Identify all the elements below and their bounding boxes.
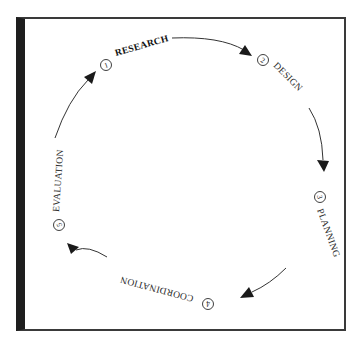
arrow-planning-to-coordination [240, 268, 286, 298]
stage-evaluation: 5 EVALUATION [51, 149, 65, 230]
arrowhead-icon [239, 45, 252, 56]
arrowhead-icon [67, 243, 79, 254]
arrow-design-to-planning [309, 108, 329, 172]
stage-research: 1 RESEARCH [101, 33, 170, 70]
stage-number: 4 [206, 299, 210, 308]
arrow-research-to-design [172, 38, 252, 56]
arrow-evaluation-to-research [55, 71, 96, 138]
stage-label-design: DESIGN [272, 60, 305, 93]
stage-coordination: 4 COORDINATION [119, 275, 213, 310]
cycle-diagram: 1 RESEARCH 2 DESIGN 3 PLANNING 4 COORDIN… [0, 0, 363, 345]
stage-design: 2 DESIGN [258, 55, 305, 94]
arrowhead-icon [240, 287, 254, 298]
stage-label-research: RESEARCH [114, 33, 170, 58]
stage-label-planning: PLANNING [315, 207, 342, 258]
stage-label-evaluation: EVALUATION [51, 149, 65, 212]
stage-planning: 3 PLANNING [315, 192, 342, 259]
arrow-coordination-to-evaluation [67, 243, 107, 257]
arrowhead-icon [317, 160, 329, 172]
stage-label-coordination: COORDINATION [119, 275, 194, 304]
